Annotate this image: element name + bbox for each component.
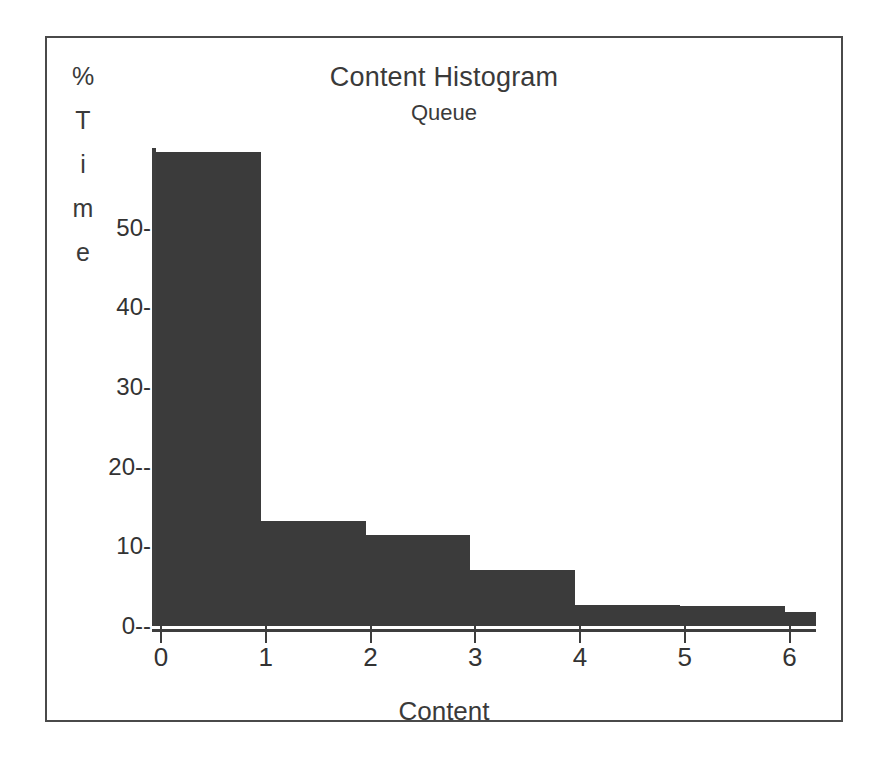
chart-subtitle: Queue bbox=[47, 100, 841, 126]
histogram-bar bbox=[785, 612, 816, 626]
x-axis-ticks: 0123456 bbox=[156, 626, 820, 686]
x-tick-mark bbox=[370, 626, 372, 643]
x-tick-mark bbox=[684, 626, 686, 643]
chart-frame: Content Histogram Queue % T i m e 50-40-… bbox=[45, 36, 843, 722]
histogram-bar bbox=[680, 606, 785, 626]
y-axis-label-char: T bbox=[63, 98, 103, 142]
x-tick-mark bbox=[160, 626, 162, 643]
histogram-bar bbox=[470, 570, 575, 626]
y-tick-label: 30- bbox=[116, 373, 151, 401]
x-tick-label: 3 bbox=[468, 642, 482, 673]
x-tick-label: 2 bbox=[363, 642, 377, 673]
x-tick-label: 1 bbox=[259, 642, 273, 673]
y-tick-label: 20-- bbox=[108, 453, 151, 481]
y-tick-label: 10- bbox=[116, 532, 151, 560]
histogram-bar bbox=[156, 152, 261, 626]
x-tick-mark bbox=[789, 626, 791, 643]
x-tick-label: 4 bbox=[573, 642, 587, 673]
y-axis-tick-labels: 50-40-30-20--10-0-- bbox=[47, 148, 151, 626]
x-tick-mark bbox=[265, 626, 267, 643]
x-axis-label: Content bbox=[47, 696, 841, 727]
x-tick-label: 0 bbox=[154, 642, 168, 673]
y-tick-label: 40- bbox=[116, 293, 151, 321]
x-tick-label: 5 bbox=[678, 642, 692, 673]
x-tick-mark bbox=[579, 626, 581, 643]
histogram-bar bbox=[261, 521, 366, 626]
x-tick-label: 6 bbox=[782, 642, 796, 673]
y-tick-label: 50- bbox=[116, 214, 151, 242]
y-tick-label: 0-- bbox=[122, 612, 151, 640]
x-tick-mark bbox=[474, 626, 476, 643]
histogram-bar bbox=[575, 605, 680, 626]
y-axis-label-char: % bbox=[63, 54, 103, 98]
histogram-bar bbox=[366, 535, 471, 626]
chart-title: Content Histogram bbox=[47, 62, 841, 93]
histogram-bars bbox=[156, 148, 816, 626]
plot-area bbox=[152, 148, 816, 626]
